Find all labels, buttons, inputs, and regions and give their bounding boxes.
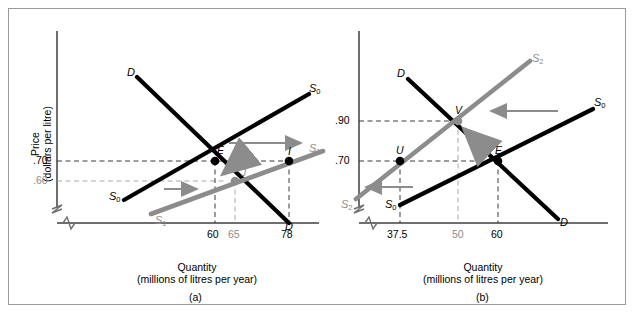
panel-a-x-axis-title: Quantity (millions of litres per year) [107,261,287,285]
panel-b-label-s0-lower: S0 [385,199,397,212]
panel-a-xtick-60: 60 [207,229,219,240]
panel-b-label-s0-upper: S0 [594,97,606,110]
curve-label-sub: 0 [116,195,120,204]
panel-b-x-axis-title: Quantity (millions of litres per year) [393,261,573,285]
point-u-b [396,157,405,166]
panel-b-label-demand-lower: D [560,217,568,228]
panel-a-tag: (a) [189,292,202,303]
panel-a-point-label-j: J [241,167,246,178]
curve-label-sub: 0 [601,101,605,110]
panel-b-guides [359,121,498,223]
panel-b-point-label-v: V [455,105,462,116]
curve-label-text: D [397,67,405,79]
panel-a-point-label-e: E [217,145,224,156]
point-j-a [231,177,240,186]
panel-a-label-demand-lower: D [285,221,293,232]
panel-b-xtick-37-5: 37.5 [387,229,407,240]
panel-b-xtick-50: 50 [452,229,464,240]
panel-a-xtick-65: 65 [228,229,240,240]
curve-label-text: D [285,220,293,232]
curve-label-text: D [127,66,135,78]
panel-b: .90 .70 37.5 50 60 D D S0 S0 S2 S2 [308,9,627,306]
figure-container: Price (dollars per litre) .70 .60 60 65 … [0,0,638,321]
point-v-b [454,117,463,126]
curve-supply-s2-b [356,61,530,199]
curve-label-sub: 1 [162,219,166,228]
panel-a-label-s1-lower: S1 [155,215,167,228]
curve-label-sub: 2 [348,203,352,212]
panel-a-point-label-i: I [288,146,291,157]
panel-b-xtick-60: 60 [491,229,503,240]
panel-b-label-s2-lower: S2 [341,199,353,212]
panel-a-ytick-70: .70 [33,155,48,166]
y-title-line2: (dollars per litre) [41,106,53,182]
y-title-line1: Price [29,132,41,156]
panel-b-tag: (b) [476,292,489,303]
panel-b-label-s2-upper: S2 [532,53,544,66]
panel-b-ytick-90: .90 [335,115,350,126]
panel-a: Price (dollars per litre) .70 .60 60 65 … [9,9,328,306]
figure-frame: Price (dollars per litre) .70 .60 60 65 … [8,8,626,305]
panel-a-label-s0-lower: S0 [109,191,121,204]
panel-b-ytick-70: .70 [335,155,350,166]
x-title-line1: Quantity [463,261,502,273]
movement-arrow-e-to-v-b [464,129,490,154]
point-e-a [211,157,220,166]
curve-label-sub: 0 [392,203,396,212]
x-title-line2: (millions of litres per year) [423,273,543,285]
panel-b-label-demand-upper: D [397,68,405,79]
panel-b-point-label-u: U [396,145,404,156]
point-e-b [494,157,503,166]
panel-a-ytick-60: .60 [33,175,48,186]
x-title-line1: Quantity [177,261,216,273]
x-title-line2: (millions of litres per year) [137,273,257,285]
panel-a-label-demand-upper: D [127,67,135,78]
panel-b-point-label-e: E [495,145,502,156]
curve-label-sub: 2 [539,57,543,66]
point-i-a [285,157,294,166]
curve-label-text: D [560,216,568,228]
